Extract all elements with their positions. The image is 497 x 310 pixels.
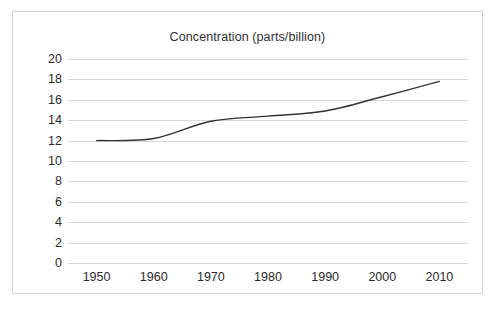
y-axis-tick-label: 16 [48,94,62,107]
x-axis-tick-label: 1970 [197,271,225,284]
y-axis-tick-label: 10 [48,155,62,168]
gridline [68,263,468,264]
series-path [97,81,440,140]
line-series-concentration [68,59,468,263]
x-axis-tick-label: 1960 [140,271,168,284]
y-axis-tick-label: 20 [48,53,62,66]
chart-title: Concentration (parts/billion) [13,30,482,44]
y-axis-tick-label: 8 [55,175,62,188]
plot-area: 02468101214161820 1950196019701980199020… [68,59,468,263]
y-axis-tick-label: 4 [55,216,62,229]
x-axis-tick-label: 1990 [311,271,339,284]
x-axis-tick-label: 2000 [368,271,396,284]
x-axis-tick-label: 1950 [83,271,111,284]
x-axis-tick-label: 2010 [426,271,454,284]
y-axis-tick-label: 14 [48,114,62,127]
x-axis-tick-label: 1980 [254,271,282,284]
y-axis-tick-label: 2 [55,236,62,249]
chart-frame: Concentration (parts/billion) 0246810121… [12,11,483,294]
y-axis-tick-label: 18 [48,73,62,86]
y-axis-tick-label: 12 [48,134,62,147]
y-axis-tick-label: 6 [55,196,62,209]
y-axis-tick-label: 0 [55,257,62,270]
